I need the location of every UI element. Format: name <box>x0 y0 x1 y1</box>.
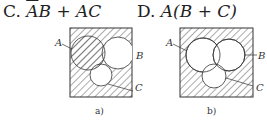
label-a-a: A <box>55 37 62 48</box>
diagram-a <box>62 28 134 97</box>
caption-b: b) <box>207 106 216 116</box>
option-d-expr: A(B + C) <box>161 1 237 21</box>
label-b-b: B <box>258 50 265 61</box>
option-c: C. AB + AC <box>3 1 101 21</box>
option-c-expr: B + AC <box>39 1 102 21</box>
label-b-c: C <box>256 82 264 93</box>
option-c-label: C. <box>3 1 21 21</box>
a-bar: A <box>26 1 38 21</box>
option-d: D. A(B + C) <box>137 1 237 21</box>
caption-a: a) <box>95 106 104 116</box>
option-d-label: D. <box>137 1 155 21</box>
label-a-b: B <box>136 50 143 61</box>
label-b-a: A <box>166 37 173 48</box>
diagram-b <box>173 28 257 97</box>
label-a-c: C <box>135 82 143 93</box>
